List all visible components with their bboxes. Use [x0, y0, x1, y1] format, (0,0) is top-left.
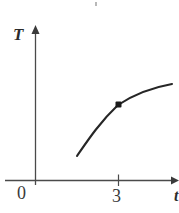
scan-artifact-speck	[95, 2, 97, 6]
x-tick-label-3: 3	[112, 187, 121, 205]
plot-area	[0, 0, 179, 213]
origin-label: 0	[17, 184, 26, 202]
x-axis-arrowhead	[171, 177, 179, 185]
y-axis-arrowhead	[32, 25, 40, 34]
curve-path	[77, 84, 172, 156]
x-axis-label: t	[174, 188, 178, 204]
y-axis-label: T	[13, 26, 23, 43]
curve-point-marker	[116, 102, 122, 108]
graph-figure: T t 0 3	[0, 0, 179, 213]
